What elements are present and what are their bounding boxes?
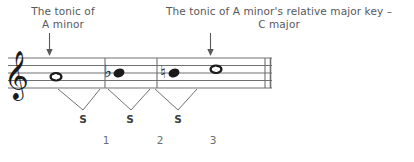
semitone-bracket-1 [58,89,100,110]
note-a-whole [51,73,62,80]
semitone-label-3: S [170,113,186,125]
staff-lines [8,58,272,88]
semitone-bracket-3 [155,89,197,110]
semitone-bracket-2 [108,89,150,110]
svg-text:𝄞: 𝄞 [4,50,29,101]
treble-clef-icon: 𝄞 [4,50,29,101]
note-b-natural: ♮ [160,62,181,82]
music-notation-figure: The tonic of A minor The tonic of A mino… [0,0,414,162]
semitone-label-2: S [122,113,138,125]
note-c-whole [211,66,222,73]
step-number-2: 2 [152,134,168,146]
step-number-1: 1 [98,134,114,146]
semitone-label-1: S [75,113,91,125]
svg-text:♮: ♮ [160,62,166,82]
step-number-3: 3 [205,134,221,146]
note-b-flat: ♭ [104,61,126,81]
svg-text:♭: ♭ [104,61,112,81]
